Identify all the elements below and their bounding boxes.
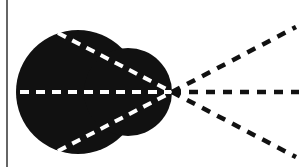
- outer-dashed-line-3: [172, 92, 296, 157]
- secondary-lobe-bulge: [84, 48, 172, 136]
- outer-diverging-dashed-lines: [172, 27, 299, 157]
- diagram-canvas: [0, 0, 299, 167]
- outer-dashed-line-1: [172, 27, 296, 92]
